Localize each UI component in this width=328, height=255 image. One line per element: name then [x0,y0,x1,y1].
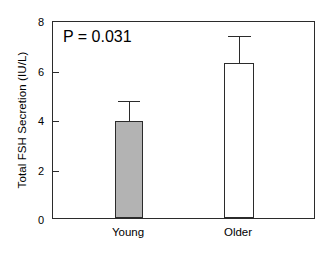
error-bar-stem-older [239,37,240,63]
y-axis-title: Total FSH Secretion (IU/L) [16,20,28,220]
bar-older [224,63,254,218]
y-tick-label-0: 0 [38,214,44,226]
y-tick-mark-4 [53,121,59,122]
x-axis-label-older: Older [224,226,252,238]
error-bar-cap-young [118,101,140,102]
y-tick-label-8: 8 [38,16,44,28]
plot-area: 8 6 4 2 0 P = 0.031 [52,21,315,219]
error-bar-cap-older [228,36,251,37]
y-tick-label-4: 4 [38,115,44,127]
bar-young [115,121,143,218]
bar-chart-figure: Total FSH Secretion (IU/L) 8 6 4 2 0 P =… [0,0,328,255]
y-tick-label-6: 6 [38,66,44,78]
error-bar-stem-young [129,102,130,121]
x-axis-label-young: Young [112,226,144,238]
y-tick-label-2: 2 [38,165,44,177]
p-value-annotation: P = 0.031 [63,28,132,46]
y-tick-mark-6 [53,72,59,73]
y-tick-mark-2 [53,171,59,172]
